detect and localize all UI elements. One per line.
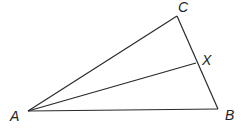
label-a: A xyxy=(9,108,19,124)
label-b: B xyxy=(225,107,234,123)
triangle-diagram: C X A B xyxy=(0,0,250,128)
label-x: X xyxy=(201,52,212,68)
label-c: C xyxy=(178,0,189,15)
segment-bc xyxy=(177,16,218,109)
segment-ax xyxy=(28,63,196,111)
segment-ca xyxy=(28,16,177,111)
segment-ab xyxy=(28,109,218,111)
